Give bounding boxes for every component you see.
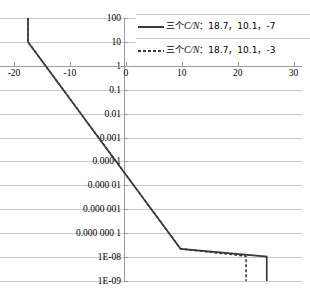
legend-line-sample-dashed	[138, 46, 164, 56]
legend-item-solid[interactable]: 三个C/N：18.7，10.1，-7	[136, 14, 310, 38]
legend: 三个C/N：18.7，10.1，-7 三个C/N：18.7，10.1，-3	[136, 14, 310, 62]
legend-label-dashed: 三个C/N：18.7，10.1，-3	[166, 45, 275, 56]
legend-item-dashed[interactable]: 三个C/N：18.7，10.1，-3	[136, 38, 310, 62]
chart-container: 1001010.10.010.0010.000 10.000 010.000 0…	[0, 0, 310, 300]
legend-line-sample-solid	[138, 22, 164, 32]
legend-label-solid: 三个C/N：18.7，10.1，-7	[166, 21, 275, 32]
